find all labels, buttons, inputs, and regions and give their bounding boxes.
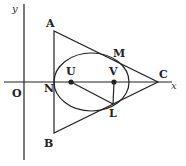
label-m: M — [113, 47, 125, 60]
label-n: N — [44, 82, 54, 95]
label-u: U — [66, 65, 76, 78]
label-l: L — [109, 107, 117, 120]
label-c: C — [159, 68, 168, 81]
x-axis-label: x — [171, 80, 177, 91]
point-u — [68, 79, 73, 84]
segment-ul — [71, 82, 113, 104]
label-a: A — [45, 17, 55, 30]
y-axis-label: y — [11, 3, 18, 14]
label-v: V — [108, 65, 118, 78]
point-v — [111, 79, 116, 84]
geometry-diagram: y x O A B C M N U V L — [0, 0, 186, 166]
segment-vl — [113, 82, 114, 104]
origin-label: O — [12, 87, 22, 100]
label-b: B — [44, 137, 53, 150]
